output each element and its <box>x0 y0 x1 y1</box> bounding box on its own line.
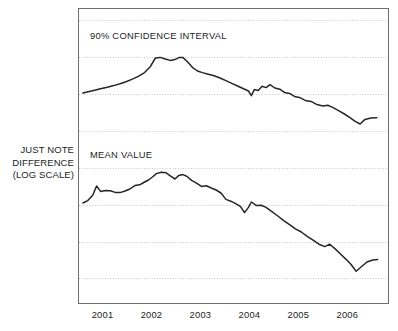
y-axis-label-line-2: DIFFERENCE <box>0 157 74 170</box>
x-tick-label-2004: 2004 <box>239 309 261 320</box>
y-axis-label: JUST NOTE DIFFERENCE (LOG SCALE) <box>0 144 74 182</box>
chart-figure: JUST NOTE DIFFERENCE (LOG SCALE) 90% CON… <box>0 0 398 331</box>
y-axis-label-line-1: JUST NOTE <box>0 144 74 157</box>
x-tick-label-2006: 2006 <box>337 309 359 320</box>
series-line-confidence-interval <box>83 57 377 124</box>
x-tick-label-2003: 2003 <box>190 309 212 320</box>
x-tick-label-2001: 2001 <box>92 309 114 320</box>
x-tick-label-2005: 2005 <box>288 309 310 320</box>
series-annotation-mean-value: MEAN VALUE <box>90 149 152 160</box>
y-axis-label-line-3: (LOG SCALE) <box>0 169 74 182</box>
series-line-mean-value <box>83 172 378 271</box>
x-tick-label-2002: 2002 <box>141 309 163 320</box>
series-annotation-confidence-interval: 90% CONFIDENCE INTERVAL <box>90 30 227 41</box>
x-axis-tick-labels: 200120022003200420052006 <box>92 309 359 320</box>
series-lines <box>83 57 378 271</box>
